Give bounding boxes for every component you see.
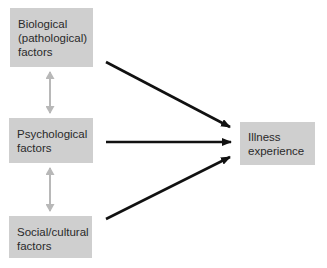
diagram-arrows bbox=[0, 0, 327, 268]
arrow-social-to-illness bbox=[106, 157, 230, 219]
arrow-biological-to-illness bbox=[106, 62, 230, 127]
